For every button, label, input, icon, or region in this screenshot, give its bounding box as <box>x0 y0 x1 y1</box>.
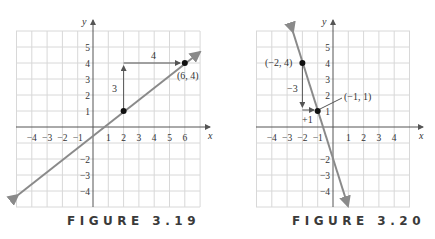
svg-text:6: 6 <box>182 133 187 143</box>
point-6-4 <box>182 60 188 66</box>
point-label-leader <box>320 98 342 109</box>
svg-text:−4: −4 <box>27 133 37 143</box>
svg-text:2: 2 <box>325 91 330 101</box>
svg-text:2: 2 <box>85 91 90 101</box>
x-axis-label: x <box>207 130 213 141</box>
svg-text:4: 4 <box>152 133 157 143</box>
run-label: 4 <box>151 50 156 61</box>
x-axis-label: x <box>418 130 424 141</box>
svg-text:−3: −3 <box>42 133 52 143</box>
rise-label: −3 <box>287 83 298 94</box>
y-axis-label: y <box>81 16 87 27</box>
svg-text:−2: −2 <box>297 133 307 143</box>
y-axis-label: y <box>321 16 327 27</box>
svg-text:4: 4 <box>85 59 90 69</box>
svg-text:−1: −1 <box>313 133 323 143</box>
x-tick-labels: −4 −3 −2 −1 1 2 3 4 5 6 <box>27 133 188 143</box>
svg-text:−3: −3 <box>282 133 292 143</box>
figure-caption-3-20: FIGURE 3.20 <box>292 214 425 228</box>
x-tick-labels: −4 −3 −2 −1 1 2 3 4 <box>267 133 397 143</box>
svg-text:1: 1 <box>106 133 111 143</box>
y-tick-labels: 5 4 3 2 1 −2 −3 −4 <box>80 43 90 197</box>
svg-text:−4: −4 <box>320 187 330 197</box>
svg-text:−2: −2 <box>57 133 67 143</box>
svg-text:−2: −2 <box>320 155 330 165</box>
svg-text:−2: −2 <box>80 155 90 165</box>
figure-caption-3-19: FIGURE 3.19 <box>67 214 200 228</box>
figure-3-19-graph: x y −4 −3 −2 −1 1 2 3 4 5 6 5 4 3 2 1 −2… <box>0 0 220 212</box>
svg-text:3: 3 <box>325 75 330 85</box>
point-label-6-4: (6, 4) <box>177 70 199 82</box>
svg-text:1: 1 <box>346 133 351 143</box>
point-label-neg2-4: (−2, 4) <box>265 57 292 69</box>
svg-text:3: 3 <box>137 133 142 143</box>
svg-text:2: 2 <box>361 133 366 143</box>
svg-text:−4: −4 <box>80 187 90 197</box>
svg-text:−3: −3 <box>80 171 90 181</box>
point-label-neg1-1: (−1, 1) <box>344 91 371 103</box>
figure-3-20-graph: x y −4 −3 −2 −1 1 2 3 4 5 4 3 2 1 −2 −3 … <box>220 0 435 212</box>
svg-text:5: 5 <box>85 43 90 53</box>
rise-label: 3 <box>112 83 117 94</box>
plotted-line <box>18 52 200 195</box>
point-2-1 <box>121 108 127 114</box>
svg-text:5: 5 <box>167 133 172 143</box>
svg-text:2: 2 <box>121 133 126 143</box>
svg-text:1: 1 <box>85 107 90 117</box>
svg-text:3: 3 <box>377 133 382 143</box>
svg-text:3: 3 <box>85 75 90 85</box>
svg-text:5: 5 <box>325 43 330 53</box>
axes <box>16 20 210 207</box>
svg-text:1: 1 <box>325 107 330 117</box>
point-neg2-4 <box>299 60 305 66</box>
svg-text:−1: −1 <box>73 133 83 143</box>
point-neg1-1 <box>315 108 321 114</box>
grid <box>16 31 200 207</box>
svg-text:−4: −4 <box>267 133 277 143</box>
svg-text:4: 4 <box>392 133 397 143</box>
run-label: +1 <box>302 114 313 125</box>
svg-text:4: 4 <box>325 59 330 69</box>
svg-text:−3: −3 <box>320 171 330 181</box>
